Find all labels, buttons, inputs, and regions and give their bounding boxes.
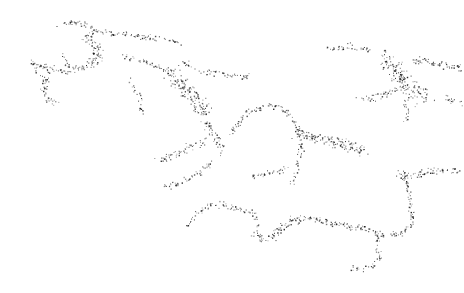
stipple-canvas [0, 0, 464, 293]
background [0, 0, 464, 293]
